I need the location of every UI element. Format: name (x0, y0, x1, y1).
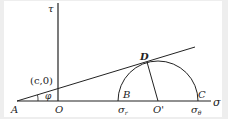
sigma-axis-label: σ (213, 96, 221, 109)
mohr-circle-diagram: τ (c,0) φ A O B C D O' σr σθ σ (0, 0, 228, 119)
angle-phi-arc (38, 95, 39, 101)
intercept-label: (c,0) (30, 75, 53, 86)
point-b-label: B (122, 89, 130, 100)
phi-label: φ (45, 91, 52, 101)
sigma-r-label: σr (118, 104, 129, 116)
point-d-label: D (139, 51, 149, 62)
strength-envelope-line (17, 47, 195, 101)
point-a-label: A (10, 104, 18, 115)
sigma-theta-label: σθ (191, 104, 202, 116)
point-o-label: O (55, 104, 63, 115)
tau-label: τ (48, 3, 54, 14)
radius-line (147, 62, 158, 101)
point-o-prime-label: O' (153, 104, 164, 115)
point-c-label: C (198, 89, 206, 100)
